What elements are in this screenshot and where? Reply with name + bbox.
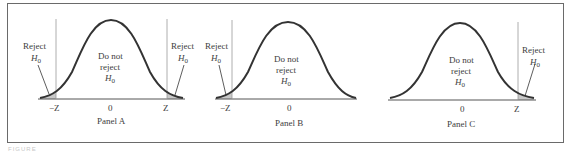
panel-c: Reject H0 Do not reject H0 0 Z Panel C [388, 22, 545, 129]
panel-a-left-h0-label: H0 [30, 53, 42, 65]
panel-b-do-not-label: Do not [274, 54, 299, 64]
panel-a-neg-z-tick: −Z [49, 103, 60, 113]
panel-b-left-pointer [219, 65, 226, 95]
panel-c-right-h0-label: H0 [529, 57, 541, 69]
panel-b-h0-label: H0 [280, 76, 292, 88]
panel-b-zero-tick: 0 [287, 103, 292, 113]
panel-a-do-not-label: Do not [98, 51, 123, 61]
panel-a-title: Panel A [97, 116, 126, 126]
panel-a-reject-label: reject [100, 62, 120, 72]
panel-a-zero-tick: 0 [108, 103, 113, 113]
panel-b: Reject H0 Do not reject H0 −Z 0 Panel B [205, 20, 357, 128]
panel-b-left-reject-label: Reject [205, 41, 228, 51]
panel-b-left-h0-label: H0 [210, 53, 222, 65]
panel-c-z-tick: Z [514, 104, 520, 114]
panel-c-right-reject-label: Reject [522, 45, 545, 55]
hypothesis-test-figure: Reject H0 Reject H0 Do not reject H0 −Z … [0, 0, 573, 153]
panel-c-title: Panel C [447, 119, 475, 129]
panel-c-zero-tick: 0 [460, 104, 465, 114]
panel-c-do-not-label: Do not [449, 55, 474, 65]
panel-a-right-pointer [175, 65, 184, 95]
panel-c-right-pointer [525, 64, 535, 96]
panel-a-z-tick: Z [163, 103, 169, 113]
panel-b-neg-z-tick: −Z [220, 103, 231, 113]
panel-a-left-reject-label: Reject [23, 41, 46, 51]
panel-c-h0-label: H0 [454, 77, 466, 89]
panel-a-right-reject-label: Reject [171, 41, 194, 51]
panel-c-reject-label: reject [451, 66, 471, 76]
panel-a: Reject H0 Reject H0 Do not reject H0 −Z … [23, 19, 194, 126]
panel-a-right-h0-label: H0 [177, 53, 189, 65]
figure-caption: FIGURE [8, 146, 37, 152]
panel-a-h0-label: H0 [104, 73, 116, 85]
panel-b-reject-label: reject [276, 65, 296, 75]
panel-a-left-pointer [38, 65, 49, 94]
panel-b-title: Panel B [275, 118, 303, 128]
